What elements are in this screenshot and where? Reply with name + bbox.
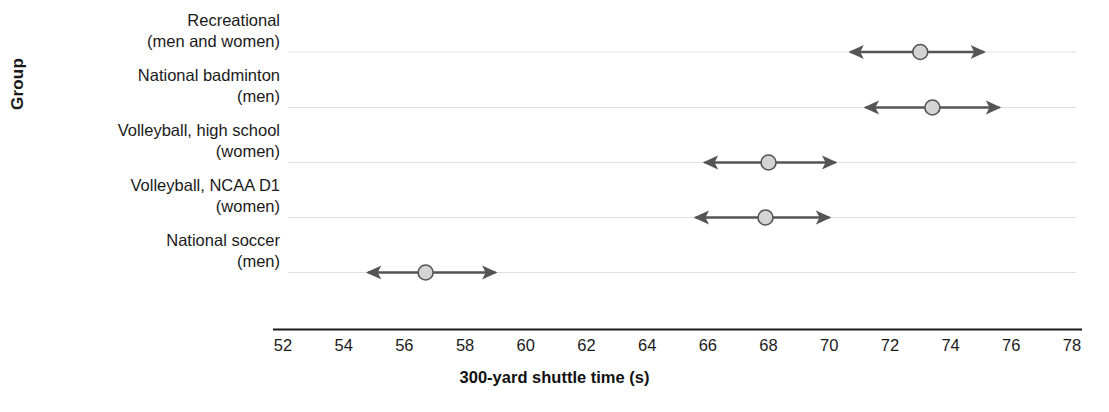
x-tick-label: 60 — [517, 336, 535, 355]
x-tick-label: 54 — [335, 336, 353, 355]
x-axis-title: 300-yard shuttle time (s) — [0, 368, 1109, 387]
data-point-group — [850, 45, 984, 60]
x-tick-label: 76 — [1002, 336, 1020, 355]
x-tick-label: 58 — [456, 336, 474, 355]
data-point-group — [705, 155, 836, 170]
data-point-group — [696, 210, 830, 225]
data-point-marker — [761, 155, 776, 170]
shuttle-time-chart: Group Recreational (men and women) Natio… — [0, 0, 1109, 412]
data-point-marker — [913, 45, 928, 60]
x-tick-label: 72 — [881, 336, 899, 355]
data-point-marker — [758, 210, 773, 225]
x-tick-label: 64 — [638, 336, 656, 355]
x-tick-label: 66 — [699, 336, 717, 355]
data-point-marker — [925, 100, 940, 115]
x-tick-label: 74 — [941, 336, 959, 355]
x-tick-label: 78 — [1063, 336, 1081, 355]
data-point-group — [368, 265, 496, 280]
x-tick-label: 52 — [274, 336, 292, 355]
x-tick-label: 68 — [759, 336, 777, 355]
x-tick-label: 70 — [820, 336, 838, 355]
x-tick-label: 62 — [577, 336, 595, 355]
data-point-group — [866, 100, 1000, 115]
data-point-marker — [418, 265, 433, 280]
gridlines — [288, 52, 1076, 273]
x-tick-label: 56 — [395, 336, 413, 355]
